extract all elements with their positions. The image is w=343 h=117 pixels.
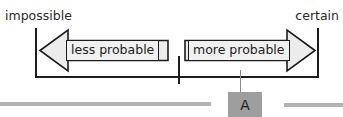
bottom-rule-right <box>284 103 343 107</box>
probability-scale-figure: impossible certain less probable more pr… <box>0 0 343 117</box>
axis-tick-certain <box>317 28 319 78</box>
axis-tick-impossible <box>35 28 37 78</box>
scale-left-end-label: impossible <box>5 9 72 23</box>
marker-leader-line <box>240 70 241 94</box>
arrow-left-caption: less probable <box>66 40 159 61</box>
probability-axis-line <box>35 76 319 78</box>
scale-right-end-label: certain <box>295 9 339 23</box>
bottom-rule-left <box>0 102 211 106</box>
axis-tick-midpoint <box>178 56 180 84</box>
arrow-right-caption: more probable <box>188 40 290 61</box>
marker-a-label: A <box>240 98 250 112</box>
marker-a-box: A <box>228 92 262 117</box>
